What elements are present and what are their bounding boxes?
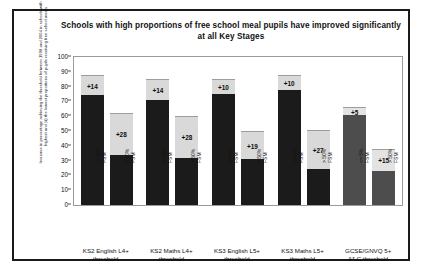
x-sub-label: > 50%FSM	[321, 117, 333, 163]
bar-data-label: +10	[278, 80, 301, 87]
y-tick-mark	[68, 56, 71, 57]
x-sub-label-line1: <= 8%	[161, 117, 167, 163]
x-sub-label-line2: FSM	[233, 117, 239, 163]
y-tick-label: 40	[41, 141, 68, 148]
y-axis-ticks: 0102030405060708090100	[44, 52, 71, 210]
x-group-label-line2: A*-C threshold	[331, 255, 405, 263]
y-tick-mark	[68, 130, 71, 131]
y-tick-mark	[68, 100, 71, 101]
bar-data-label: +5	[343, 109, 366, 116]
x-sub-label: > 50%FSM	[387, 117, 399, 163]
x-group-label-line1: KS2 Maths L4+	[134, 247, 208, 255]
bar-segment-base	[241, 159, 264, 205]
x-sub-label-line2: FSM	[298, 117, 304, 163]
bar-segment-increase: +14	[81, 75, 104, 96]
y-tick-label: 30	[41, 156, 68, 163]
x-group-label: KS3 English L5+threshold	[200, 247, 274, 263]
y-tick-mark	[68, 189, 71, 190]
x-sub-label: > 50%FSM	[190, 117, 202, 163]
x-group-label-line2: threshold	[200, 255, 274, 263]
x-sub-label-line1: <= 5%	[227, 117, 233, 163]
bar-data-label: +10	[212, 84, 235, 91]
bar-segment-base	[372, 171, 395, 205]
bar-segment-increase: +14	[146, 79, 169, 100]
x-sub-label: > 50%FSM	[124, 117, 136, 163]
bar-segment-increase: +5	[343, 107, 366, 114]
bar-data-label: +14	[146, 87, 169, 94]
x-group-label: GCSE/GNVQ 5+A*-C threshold	[331, 247, 405, 263]
y-tick-label: 20	[41, 171, 68, 178]
y-tick-mark	[68, 159, 71, 160]
x-group-label: KS2 Maths L4+threshold	[134, 247, 208, 263]
x-group-label-line1: KS3 English L5+	[200, 247, 274, 255]
x-group-label-line1: KS3 Maths L5+	[266, 247, 340, 255]
x-sub-label-line2: FSM	[167, 117, 173, 163]
x-sub-label-line2: FSM	[327, 117, 333, 163]
y-tick-mark	[68, 115, 71, 116]
x-group-label: KS3 Maths L5+threshold	[266, 247, 340, 263]
y-tick-label: 50	[41, 127, 68, 134]
bar-segment-base	[175, 158, 198, 205]
x-sub-label-line2: FSM	[101, 117, 107, 163]
x-sub-label-line1: > 50%	[190, 117, 196, 163]
x-sub-label: <= 5%FSM	[292, 117, 304, 163]
x-group-label-line1: GCSE/GNVQ 5+	[331, 247, 405, 255]
y-tick-mark	[68, 144, 71, 145]
x-group-label-line1: KS2 English L4+	[69, 247, 143, 255]
x-sub-label-line1: <= 5%	[358, 117, 364, 163]
bar-segment-increase: +10	[212, 79, 235, 94]
y-tick-mark	[68, 204, 71, 205]
x-group-label-line2: threshold	[69, 255, 143, 263]
y-tick-label: 100	[41, 53, 68, 60]
x-sub-label: <= 8%FSM	[95, 117, 107, 163]
x-sub-label: <= 5%FSM	[358, 117, 370, 163]
y-tick-label: 90	[41, 67, 68, 74]
bar-segment-increase: +10	[278, 75, 301, 90]
x-sub-label-line2: FSM	[130, 117, 136, 163]
y-tick-mark	[68, 85, 71, 86]
chart-title: Schools with high proportions of free sc…	[58, 20, 404, 42]
y-tick-mark	[68, 70, 71, 71]
x-sub-label-line2: FSM	[196, 117, 202, 163]
x-sub-label-line2: FSM	[262, 117, 268, 163]
x-sub-label-line2: FSM	[364, 117, 370, 163]
x-group-label-line2: threshold	[134, 255, 208, 263]
x-sub-label-line2: FSM	[393, 117, 399, 163]
y-tick-mark	[68, 174, 71, 175]
x-sub-label-line1: > 50%	[387, 117, 393, 163]
y-tick-label: 60	[41, 112, 68, 119]
x-sub-label: <= 8%FSM	[161, 117, 173, 163]
bar-data-label: +14	[81, 83, 104, 90]
y-tick-label: 70	[41, 97, 68, 104]
chart-frame: Schools with high proportions of free sc…	[12, 9, 410, 261]
x-sub-label-line1: > 50%	[256, 117, 262, 163]
y-tick-label: 0	[41, 201, 68, 208]
x-group-label-line2: threshold	[266, 255, 340, 263]
y-tick-label: 80	[41, 82, 68, 89]
bar-segment-base	[307, 169, 330, 205]
y-tick-label: 10	[41, 186, 68, 193]
x-sub-label: <= 5%FSM	[227, 117, 239, 163]
x-sub-label: > 50%FSM	[256, 117, 268, 163]
x-group-label: KS2 English L4+threshold	[69, 247, 143, 263]
